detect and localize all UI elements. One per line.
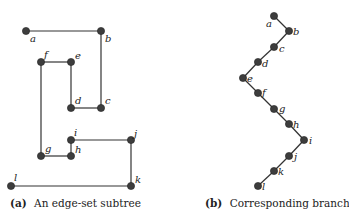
node-label-k: k bbox=[135, 174, 141, 185]
node-h bbox=[67, 152, 74, 159]
node-b bbox=[97, 27, 104, 34]
node-label-e: e bbox=[75, 50, 81, 61]
node-label-i: i bbox=[309, 135, 312, 146]
node-k bbox=[270, 167, 277, 174]
node-i bbox=[300, 136, 307, 143]
node-l bbox=[7, 182, 14, 189]
node-k bbox=[127, 182, 134, 189]
node-c bbox=[270, 43, 277, 50]
corresponding-branch-panel: abcdefghijkl (b) Corresponding branch bbox=[205, 12, 349, 209]
node-g bbox=[270, 105, 277, 112]
node-label-d: d bbox=[262, 58, 268, 69]
node-d bbox=[67, 104, 74, 111]
node-d bbox=[254, 58, 261, 65]
node-label-h: h bbox=[75, 144, 81, 155]
node-g bbox=[37, 152, 44, 159]
node-label-g: g bbox=[45, 143, 51, 154]
node-e bbox=[67, 58, 74, 65]
node-label-l: l bbox=[14, 172, 17, 183]
node-label-k: k bbox=[278, 166, 284, 177]
edge-set-subtree-panel: abcdefghijkl (a) An edge-set subtree bbox=[7, 27, 141, 209]
node-label-g: g bbox=[279, 103, 285, 114]
node-label-f: f bbox=[261, 87, 268, 98]
caption-b-tag: (b) bbox=[205, 197, 222, 209]
node-label-a: a bbox=[30, 33, 36, 44]
node-e bbox=[239, 74, 246, 81]
node-label-d: d bbox=[75, 95, 81, 106]
branch-labels: abcdefghijkl bbox=[247, 18, 312, 192]
node-label-b: b bbox=[105, 33, 111, 44]
node-label-f: f bbox=[43, 49, 50, 60]
node-label-a: a bbox=[266, 18, 272, 29]
node-f bbox=[254, 89, 261, 96]
caption-a-text: An edge-set subtree bbox=[33, 197, 141, 209]
node-label-c: c bbox=[279, 43, 285, 54]
node-label-e: e bbox=[247, 73, 253, 84]
node-label-l: l bbox=[262, 181, 265, 192]
node-label-b: b bbox=[293, 26, 299, 37]
node-h bbox=[285, 120, 292, 127]
node-l bbox=[254, 182, 261, 189]
node-a bbox=[22, 27, 29, 34]
node-b bbox=[285, 27, 292, 34]
caption-a: (a) An edge-set subtree bbox=[10, 197, 141, 209]
caption-a-tag: (a) bbox=[10, 197, 27, 209]
node-label-h: h bbox=[293, 119, 299, 130]
caption-b: (b) Corresponding branch bbox=[205, 197, 349, 209]
subtree-nodes bbox=[7, 27, 134, 189]
node-label-i: i bbox=[74, 127, 77, 138]
node-label-c: c bbox=[105, 95, 111, 106]
figure-canvas: abcdefghijkl (a) An edge-set subtree abc… bbox=[0, 0, 349, 221]
caption-b-text: Corresponding branch bbox=[230, 197, 349, 209]
node-c bbox=[97, 104, 104, 111]
node-j bbox=[285, 152, 292, 159]
subtree-labels: abcdefghijkl bbox=[14, 33, 141, 185]
branch-nodes bbox=[239, 12, 307, 189]
